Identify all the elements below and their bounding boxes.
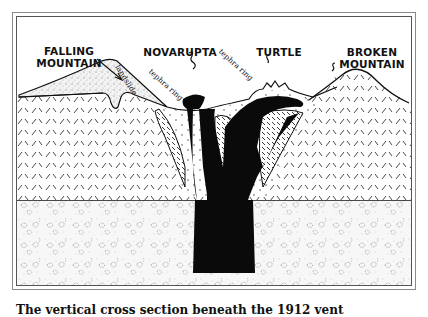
label-novarupta: NOVARUPTA	[135, 46, 225, 58]
cross-section-diagram: FALLING MOUNTAIN NOVARUPTA TURTLE BROKEN…	[16, 16, 412, 286]
magma-feeder-dike	[193, 200, 255, 273]
label-broken-mountain-line2: MOUNTAIN	[335, 58, 409, 70]
label-falling-mountain: FALLING MOUNTAIN	[29, 45, 109, 69]
figure-caption: The vertical cross section beneath the 1…	[16, 303, 343, 317]
label-falling-mountain-line2: MOUNTAIN	[29, 57, 109, 69]
label-broken-mountain: BROKEN MOUNTAIN	[335, 46, 409, 70]
label-turtle: TURTLE	[249, 46, 309, 58]
label-falling-mountain-line1: FALLING	[29, 45, 109, 57]
label-broken-mountain-line1: BROKEN	[335, 46, 409, 58]
